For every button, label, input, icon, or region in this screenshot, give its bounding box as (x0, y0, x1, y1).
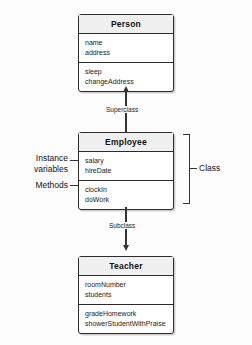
arrowhead-to-teacher (123, 245, 129, 251)
uml-methods-employee: clockIn doWork (79, 180, 173, 209)
connector-label-superclass: Superclass (104, 106, 140, 113)
uml-class-title-teacher: Teacher (79, 257, 173, 276)
uml-attributes-person: name address (79, 34, 173, 62)
connector-label-subclass: Subclass (107, 222, 137, 229)
uml-class-title-employee: Employee (79, 133, 173, 152)
uml-attribute: roomNumber (85, 280, 173, 290)
uml-class-employee[interactable]: Employee salary hireDate clockIn doWork (78, 132, 174, 210)
leader-line-methods (70, 185, 78, 186)
arrowhead-to-person (123, 86, 129, 92)
uml-attributes-teacher: roomNumber students (79, 276, 173, 304)
uml-attribute: salary (85, 156, 173, 166)
class-bracket (183, 134, 190, 204)
class-bracket-stem (190, 168, 197, 169)
uml-attribute: name (85, 38, 173, 48)
uml-method: gradeHomework (85, 309, 173, 319)
uml-class-title-person: Person (79, 15, 173, 34)
uml-diagram-canvas: Person name address sleep changeAddress … (0, 0, 252, 345)
uml-class-teacher[interactable]: Teacher roomNumber students gradeHomewor… (78, 256, 174, 334)
annotation-methods: Methods (6, 180, 68, 191)
uml-methods-teacher: gradeHomework showerStudentWithPraise (79, 304, 173, 333)
uml-method: sleep (85, 67, 173, 77)
annotation-instance-variables-line1: Instance (36, 153, 68, 163)
annotation-instance-variables-line2: variables (34, 164, 68, 174)
uml-attributes-employee: salary hireDate (79, 152, 173, 180)
uml-attribute: address (85, 48, 173, 58)
uml-method: doWork (85, 195, 173, 205)
uml-method: changeAddress (85, 77, 173, 87)
uml-method: clockIn (85, 185, 173, 195)
uml-attribute: hireDate (85, 166, 173, 176)
uml-method: showerStudentWithPraise (85, 319, 173, 329)
annotation-instance-variables: Instance variables (6, 153, 68, 175)
uml-class-person[interactable]: Person name address sleep changeAddress (78, 14, 174, 92)
uml-attribute: students (85, 290, 173, 300)
leader-line-instance-variables (70, 160, 78, 161)
annotation-class: Class (199, 163, 220, 174)
